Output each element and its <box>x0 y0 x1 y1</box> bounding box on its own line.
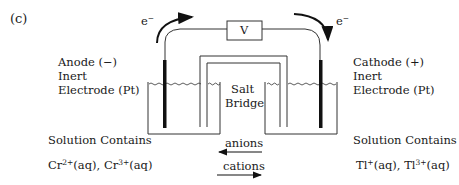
anode-label-line2: Inert <box>58 69 87 83</box>
anode-electrode <box>163 60 167 128</box>
left-solution-ions: Cr2+(aq), Cr3+(aq) <box>48 158 152 172</box>
anode-label-line1: Anode (−) <box>58 55 117 69</box>
electron-label-right: e− <box>336 14 349 28</box>
left-solution-surface <box>149 83 201 85</box>
salt-bridge-label-line2: Bridge <box>225 96 264 110</box>
electron-label-left: e− <box>141 14 154 28</box>
right-solution-heading: Solution Contains <box>353 133 457 147</box>
salt-bridge-label-line1: Salt <box>231 82 254 96</box>
left-solution-heading: Solution Contains <box>48 133 152 147</box>
cations-label: cations <box>223 159 265 173</box>
right-beaker <box>265 82 337 134</box>
anions-label: anions <box>225 136 263 150</box>
cathode-label-line3: Electrode (Pt) <box>353 83 435 97</box>
left-beaker <box>148 82 220 134</box>
external-wire <box>165 29 227 60</box>
anode-label-line3: Electrode (Pt) <box>58 83 140 97</box>
cathode-electrode <box>319 60 323 128</box>
voltmeter-label: V <box>240 23 248 37</box>
right-solution-ions: Tl+(aq), Tl3+(aq) <box>356 158 450 172</box>
cathode-label-line2: Inert <box>353 69 382 83</box>
cathode-label-line1: Cathode (+) <box>353 55 424 69</box>
panel-label: (c) <box>10 12 27 26</box>
right-solution-surface <box>267 83 279 85</box>
electron-arrow-right <box>294 14 328 40</box>
